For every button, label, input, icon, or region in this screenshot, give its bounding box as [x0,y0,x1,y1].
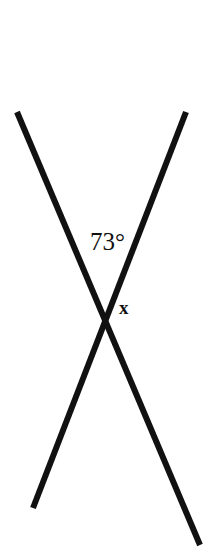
line-descending-left [33,112,186,508]
lines-canvas [0,0,214,552]
angle-measure-label: 73° [90,229,125,254]
unknown-angle-label: x [119,298,129,317]
geometry-figure: 73° x [0,0,214,552]
